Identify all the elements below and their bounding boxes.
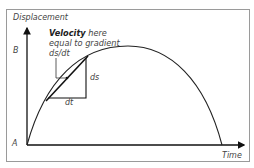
y-axis-label: Displacement (13, 13, 68, 22)
ds-label: ds (90, 73, 99, 82)
y-tick-a: A (12, 139, 17, 148)
y-tick-b: B (13, 46, 19, 55)
x-axis-label: Time (222, 151, 242, 160)
annotation-bold: Velocity (49, 28, 86, 38)
displacement-time-plot (0, 0, 254, 168)
dt-label: dt (65, 98, 73, 107)
annotation-pointer (56, 58, 67, 78)
annotation-line1: here (86, 28, 107, 38)
annotation-line2: equal to gradient (49, 38, 120, 48)
velocity-annotation: Velocity here equal to gradient ds/dt (49, 28, 120, 58)
annotation-line3: ds/dt (49, 48, 120, 58)
